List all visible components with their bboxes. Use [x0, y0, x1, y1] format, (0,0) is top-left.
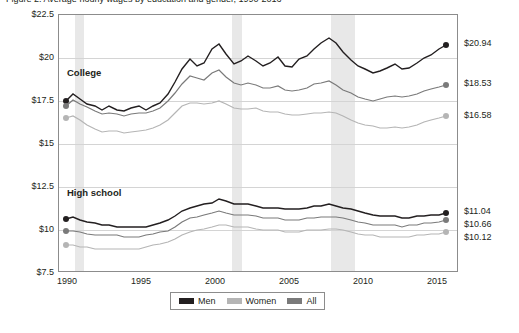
endpoint-college-women: [443, 113, 449, 119]
value-label-highschool-women: $10.12: [464, 232, 492, 242]
legend-label-all: All: [306, 296, 316, 306]
endpoint-highschool-all: [443, 217, 449, 223]
chart-legend: Men Women All: [170, 292, 325, 310]
value-label-college-all: $18.53: [464, 78, 492, 88]
ytick-20: $20: [10, 52, 54, 62]
endpoint-highschool-women: [443, 229, 449, 235]
legend-item-men: Men: [179, 296, 216, 306]
legend-swatch-women: [227, 298, 242, 304]
startpoint-college-all: [63, 103, 69, 109]
endpoint-college-all: [443, 82, 449, 88]
startpoint-highschool-men: [63, 216, 69, 222]
value-label-college-men: $20.94: [464, 38, 492, 48]
legend-label-men: Men: [198, 296, 216, 306]
endpoint-college-men: [443, 42, 449, 48]
group-label-high-school: High school: [67, 187, 121, 198]
line-highschool-all: [66, 211, 446, 237]
xtick-1990: 1990: [47, 276, 87, 286]
chart-title: Figure 2. Average hourly wages by educat…: [6, 0, 282, 4]
endpoint-highschool-men: [443, 210, 449, 216]
ytick-17p5: $17.5: [10, 95, 54, 105]
plot-area: College High school: [58, 14, 458, 272]
ytick-22p5: $22.5: [10, 9, 54, 19]
legend-swatch-all: [287, 298, 302, 304]
startpoint-college-women: [63, 115, 69, 121]
startpoint-highschool-all: [63, 228, 69, 234]
startpoint-highschool-women: [63, 242, 69, 248]
xtick-2015: 2015: [417, 276, 457, 286]
ytick-15: $15: [10, 138, 54, 148]
chart-figure: Figure 2. Average hourly wages by educat…: [0, 0, 519, 333]
line-college-men: [66, 38, 446, 111]
value-label-highschool-all: $10.66: [464, 219, 492, 229]
legend-item-women: Women: [227, 296, 277, 306]
ytick-10: $10: [10, 224, 54, 234]
ytick-12p5: $12.5: [10, 181, 54, 191]
legend-item-all: All: [287, 296, 316, 306]
value-label-highschool-men: $11.04: [464, 206, 491, 216]
xtick-2005: 2005: [269, 276, 309, 286]
legend-swatch-men: [179, 298, 194, 304]
line-highschool-men: [66, 199, 446, 227]
xtick-2000: 2000: [195, 276, 235, 286]
group-label-college: College: [67, 67, 101, 78]
series-lines: [59, 15, 459, 273]
line-college-all: [66, 70, 446, 116]
xtick-1995: 1995: [121, 276, 161, 286]
line-college-women: [66, 101, 446, 133]
xtick-2010: 2010: [343, 276, 383, 286]
value-label-college-women: $16.58: [464, 110, 492, 120]
legend-label-women: Women: [246, 296, 277, 306]
